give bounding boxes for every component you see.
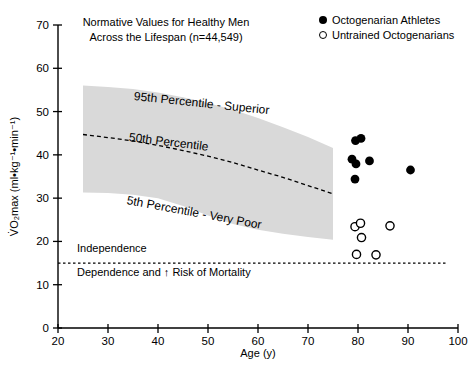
legend: Octogenarian Athletes Untrained Octogena… <box>319 13 454 42</box>
x-tick-label: 70 <box>302 335 315 347</box>
athlete-point <box>351 175 360 184</box>
y-tick-label: 40 <box>36 149 49 161</box>
filled-circle-icon <box>319 16 327 24</box>
untrained-point <box>352 250 360 258</box>
athlete-point <box>352 160 361 169</box>
athlete-point <box>357 134 366 143</box>
x-tick-label: 60 <box>252 335 265 347</box>
x-tick-label: 20 <box>52 335 65 347</box>
athlete-point <box>365 157 374 166</box>
independence-label: Independence <box>77 242 147 254</box>
plot-area: 2030405060708090100010203040506070 <box>0 0 475 376</box>
legend-item-untrained: Untrained Octogenarians <box>319 28 454 43</box>
y-tick-label: 50 <box>36 106 49 118</box>
y-tick-label: 0 <box>43 322 49 334</box>
x-axis-label: Age (y) <box>208 347 308 359</box>
legend-item-athletes: Octogenarian Athletes <box>319 13 454 28</box>
dependence-label: Dependence and ↑ Risk of Mortality <box>77 266 251 278</box>
untrained-point <box>386 222 394 230</box>
x-tick-label: 50 <box>202 335 215 347</box>
y-tick-label: 70 <box>36 19 49 31</box>
chart-title: Normative Values for Healthy Men Across … <box>66 15 266 44</box>
y-tick-label: 20 <box>36 235 49 247</box>
y-tick-label: 30 <box>36 192 49 204</box>
x-tick-label: 40 <box>152 335 165 347</box>
athlete-point <box>406 166 415 175</box>
untrained-point <box>357 233 365 241</box>
y-tick-label: 60 <box>36 62 49 74</box>
x-tick-label: 30 <box>102 335 115 347</box>
x-tick-label: 80 <box>352 335 365 347</box>
vo2max-scatter-figure: 2030405060708090100010203040506070 Norma… <box>0 0 475 376</box>
chart-title-line2: Across the Lifespan (n=44,549) <box>66 30 266 45</box>
x-tick-label: 90 <box>402 335 415 347</box>
open-circle-icon <box>319 31 327 39</box>
untrained-point <box>356 219 364 227</box>
chart-title-line1: Normative Values for Healthy Men <box>66 15 266 30</box>
legend-label-untrained: Untrained Octogenarians <box>332 28 454 43</box>
y-tick-label: 10 <box>36 279 49 291</box>
x-tick-label: 100 <box>448 335 467 347</box>
legend-label-athletes: Octogenarian Athletes <box>332 13 440 28</box>
y-axis-label: V̇O₂max (ml•kg⁻¹•min⁻¹) <box>8 97 21 257</box>
untrained-point <box>372 251 380 259</box>
